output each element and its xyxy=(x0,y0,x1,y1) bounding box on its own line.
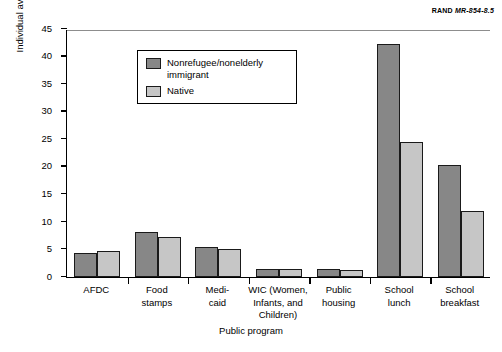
bar-group xyxy=(128,232,189,277)
legend-swatch xyxy=(146,86,161,97)
bar-group xyxy=(67,251,128,277)
x-axis-title: Public program xyxy=(0,325,502,336)
bar xyxy=(97,251,120,277)
x-axis-category-label-line: School xyxy=(423,284,496,297)
x-axis-tick xyxy=(188,277,189,284)
y-axis-tick: 5 xyxy=(61,248,67,249)
y-axis-tick: 40 xyxy=(61,55,67,56)
bar xyxy=(158,237,181,277)
y-axis-tick: 35 xyxy=(61,83,67,84)
y-axis-tick-label: 15 xyxy=(41,187,52,198)
y-axis-tick-label: 40 xyxy=(41,50,52,61)
legend-item[interactable]: Native xyxy=(146,85,289,97)
legend-label: Native xyxy=(167,85,194,97)
y-axis-title: Individual average monthly probability o… xyxy=(10,0,42,57)
bar-group xyxy=(309,269,370,277)
bar xyxy=(438,165,461,277)
y-axis-tick-label: 20 xyxy=(41,160,52,171)
y-axis-tick-label: 35 xyxy=(41,77,52,88)
x-axis-category-label: Schoolbreakfast xyxy=(423,284,496,309)
y-axis-tick: 10 xyxy=(61,221,67,222)
x-axis-tick xyxy=(249,277,250,284)
x-axis-tick xyxy=(370,277,371,284)
bar xyxy=(218,249,241,277)
bar xyxy=(279,269,302,277)
y-axis-tick-label: 25 xyxy=(41,132,52,143)
legend-rows: Nonrefugee/nonelderlyimmigrantNative xyxy=(146,57,289,97)
bar xyxy=(135,232,158,277)
y-axis-tick: 45 xyxy=(61,28,67,29)
bar xyxy=(74,253,97,277)
bar xyxy=(377,44,400,277)
y-axis-tick: 30 xyxy=(61,110,67,111)
bar-group xyxy=(370,44,431,277)
source-credit: RAND MR-854-8.5 xyxy=(432,7,494,14)
y-axis-tick-label: 10 xyxy=(41,215,52,226)
rand-document-id: MR-854-8.5 xyxy=(455,7,494,14)
legend-label-line: Native xyxy=(167,85,194,97)
y-axis-tick-label: 45 xyxy=(41,22,52,33)
bar-group xyxy=(188,247,249,277)
bar xyxy=(461,211,484,277)
legend-label: Nonrefugee/nonelderlyimmigrant xyxy=(167,57,263,80)
bar-group xyxy=(430,165,491,277)
legend-label-line: Nonrefugee/nonelderly xyxy=(167,57,263,69)
rand-logo-text: RAND xyxy=(432,7,453,14)
y-axis-tick: 25 xyxy=(61,138,67,139)
legend-item[interactable]: Nonrefugee/nonelderlyimmigrant xyxy=(146,57,289,80)
bar xyxy=(317,269,340,277)
x-axis-tick xyxy=(128,277,129,284)
y-axis-tick: 20 xyxy=(61,165,67,166)
bar-chart-figure: RAND MR-854-8.5 Individual average month… xyxy=(0,0,502,352)
bar-group xyxy=(249,269,310,277)
x-axis-tick xyxy=(309,277,310,284)
x-axis-category-label-line: Children) xyxy=(242,309,315,322)
legend-swatch xyxy=(146,58,161,69)
bar xyxy=(400,142,423,277)
x-axis-tick xyxy=(430,277,431,284)
bar xyxy=(340,270,363,277)
x-axis-category-label-line: breakfast xyxy=(423,297,496,310)
y-axis-tick-label: 5 xyxy=(47,243,52,254)
y-axis-tick-label: 0 xyxy=(47,270,52,281)
bar xyxy=(195,247,218,277)
bar xyxy=(256,269,279,277)
y-axis-tick-label: 30 xyxy=(41,105,52,116)
legend: Nonrefugee/nonelderlyimmigrantNative xyxy=(137,50,297,104)
y-axis-tick: 15 xyxy=(61,193,67,194)
legend-label-line: immigrant xyxy=(167,69,263,81)
